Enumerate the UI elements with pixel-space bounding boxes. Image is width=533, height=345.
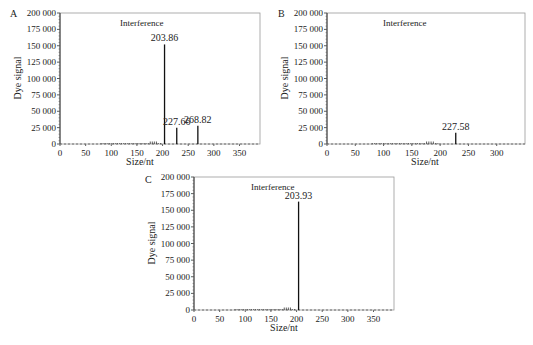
panel-letter: A — [10, 8, 18, 19]
y-tick-label: 75 000 — [31, 90, 56, 100]
x-tick-label: 100 — [377, 148, 391, 158]
y-tick-label: 150 000 — [27, 41, 57, 51]
trace: 203.93 — [235, 190, 312, 310]
y-axis-label: Dye signal — [12, 56, 23, 99]
y-tick-label: 175 000 — [161, 189, 191, 199]
peak-label: 268.82 — [184, 114, 212, 125]
x-tick-label: 100 — [105, 148, 119, 158]
chart-title: Interference — [120, 18, 163, 28]
x-tick-label: 300 — [490, 148, 504, 158]
chart-title: Interference — [251, 182, 294, 192]
y-tick-label: 125 000 — [27, 57, 57, 67]
x-tick-label: 250 — [315, 314, 329, 324]
y-tick-label: 150 000 — [294, 41, 324, 51]
y-tick-label: 175 000 — [294, 24, 324, 34]
y-tick-label: 25 000 — [165, 288, 190, 298]
x-tick-label: 350 — [367, 314, 381, 324]
x-axis-label: Size/nt — [270, 322, 298, 333]
y-tick-label: 200 000 — [161, 172, 191, 182]
y-axis-label: Dye signal — [146, 221, 157, 264]
y-tick-label: 50 000 — [165, 272, 190, 282]
x-tick-label: 50 — [215, 314, 225, 324]
x-tick-label: 250 — [462, 148, 476, 158]
x-tick-label: 0 — [58, 148, 63, 158]
x-tick-label: 50 — [81, 148, 91, 158]
x-tick-label: 200 — [156, 148, 170, 158]
x-tick-label: 0 — [192, 314, 197, 324]
chart-panel-b: B 025 00050 00075 000100 000125 000150 0… — [265, 0, 533, 170]
y-tick-label: 75 000 — [165, 255, 190, 265]
plot-frame — [327, 13, 525, 144]
trace: 203.86227.66268.82 — [101, 32, 212, 144]
panel-letter: C — [145, 174, 152, 185]
y-axis: 025 00050 00075 000100 000125 000150 000… — [294, 8, 327, 149]
chart-panel-c: C 025 00050 00075 000100 000125 000150 0… — [130, 170, 400, 345]
y-tick-label: 50 000 — [31, 106, 56, 116]
y-tick-label: 200 000 — [27, 8, 57, 18]
y-tick-label: 75 000 — [298, 90, 323, 100]
x-tick-label: 350 — [233, 148, 247, 158]
x-axis-label: Size/nt — [126, 156, 154, 167]
y-tick-label: 125 000 — [161, 222, 191, 232]
chart-title: Interference — [383, 18, 426, 28]
x-tick-label: 300 — [341, 314, 355, 324]
y-tick-label: 25 000 — [31, 123, 56, 133]
y-tick-label: 175 000 — [27, 24, 57, 34]
x-tick-label: 50 — [351, 148, 361, 158]
peak-label: 227.58 — [442, 121, 470, 132]
x-tick-label: 0 — [325, 148, 330, 158]
x-tick-label: 300 — [207, 148, 221, 158]
y-tick-label: 150 000 — [161, 205, 191, 215]
x-tick-label: 100 — [239, 314, 253, 324]
y-tick-label: 0 — [319, 139, 324, 149]
x-axis-label: Size/nt — [411, 156, 439, 167]
y-tick-label: 200 000 — [294, 8, 324, 18]
chart-panel-a: A 025 00050 00075 000100 000125 000150 0… — [0, 0, 270, 170]
y-axis: 025 00050 00075 000100 000125 000150 000… — [161, 172, 194, 315]
y-tick-label: 0 — [186, 305, 191, 315]
y-tick-label: 100 000 — [294, 74, 324, 84]
y-tick-label: 125 000 — [294, 57, 324, 67]
y-axis-label: Dye signal — [279, 56, 290, 99]
y-tick-label: 0 — [52, 139, 57, 149]
panel-letter: B — [278, 8, 285, 19]
y-tick-label: 25 000 — [298, 123, 323, 133]
trace: 227.58 — [372, 121, 469, 144]
y-tick-label: 50 000 — [298, 106, 323, 116]
y-tick-label: 100 000 — [27, 74, 57, 84]
y-tick-label: 100 000 — [161, 239, 191, 249]
peak-label: 203.86 — [151, 32, 179, 43]
x-tick-label: 250 — [181, 148, 195, 158]
y-axis: 025 00050 00075 000100 000125 000150 000… — [27, 8, 60, 149]
